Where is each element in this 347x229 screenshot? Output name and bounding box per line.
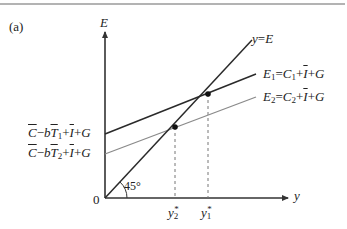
equilibrium-point-2 — [172, 124, 178, 130]
x-axis-label: y — [294, 189, 300, 202]
e2-g: G — [315, 89, 324, 104]
e1-g: G — [315, 66, 324, 81]
e1-intercept-g: G — [81, 125, 90, 140]
e2-name: E — [263, 89, 271, 104]
panel-label: (a) — [9, 20, 23, 33]
e1-intercept-label: C−bT1+I+G — [28, 126, 91, 141]
e2-intercept-c: C — [28, 145, 37, 160]
e2-intercept-t: T — [51, 145, 58, 160]
y-axis-label: E — [100, 16, 108, 29]
forty-five-degree-line — [105, 40, 252, 198]
e2-eq: = — [275, 89, 282, 104]
e1-name: E — [263, 66, 271, 81]
y1-sup: * — [207, 204, 212, 214]
e1-intercept-c: C — [28, 125, 37, 140]
y2-sup: * — [174, 204, 179, 214]
e1-line-label: E1=C1+I+G — [263, 67, 324, 82]
forty-five-label-rhs: E — [265, 31, 273, 46]
e2-intercept-minus: − — [37, 145, 44, 160]
forty-five-line-label: y=E — [252, 32, 273, 45]
e2-plus2: + — [308, 89, 315, 104]
e1-plus2: + — [308, 66, 315, 81]
e1-eq: = — [275, 66, 282, 81]
e1-intercept-minus: − — [37, 125, 44, 140]
e2-intercept-plus1: + — [62, 145, 69, 160]
origin-label: 0 — [93, 193, 100, 206]
equilibrium-point-1 — [205, 91, 211, 97]
y1-star-label: y1* — [201, 205, 212, 221]
y2-star-label: y2* — [168, 205, 179, 221]
e2-intercept-g: G — [81, 145, 90, 160]
e2-line-label: E2=C2+I+G — [263, 90, 324, 105]
e1-intercept-plus1: + — [62, 125, 69, 140]
angle-label: 45° — [124, 180, 141, 192]
keynesian-cross-diagram: (a) E y 0 45° y=E E1=C1+I+G E2=C2+I+G C−… — [0, 0, 347, 229]
e1-intercept-t: T — [51, 125, 58, 140]
e2-intercept-label: C−bT2+I+G — [28, 146, 91, 161]
